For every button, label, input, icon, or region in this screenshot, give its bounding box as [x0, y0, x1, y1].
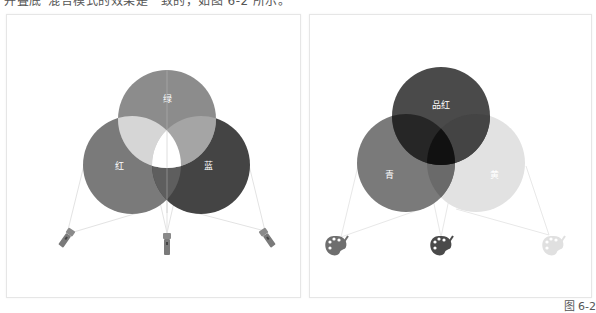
flashlight-icon — [57, 227, 75, 248]
palette-icon — [430, 236, 453, 255]
figure-caption: 图 6-2 — [564, 297, 596, 313]
red-label: 红 — [115, 160, 124, 171]
cyan-label: 青 — [385, 169, 394, 180]
blue-label: 蓝 — [204, 160, 213, 171]
yellow-label: 黄 — [490, 169, 499, 180]
subtractive-mixing-panel: 品红 青 黄 — [309, 14, 592, 298]
intro-text: 并叠底“混合模式的效果是一致的，如图 6-2 所示。 — [4, 0, 290, 8]
green-label: 绿 — [163, 93, 172, 104]
flashlight-icon — [259, 227, 277, 248]
subtractive-venn-diagram: 品红 青 黄 — [310, 15, 591, 297]
additive-mixing-panel: 绿 红 蓝 — [6, 14, 301, 298]
flashlight-icon — [163, 233, 171, 255]
palette-icon — [542, 236, 565, 255]
palette-icon — [325, 236, 348, 255]
magenta-label: 品红 — [432, 99, 450, 110]
additive-venn-diagram: 绿 红 蓝 — [7, 15, 300, 297]
